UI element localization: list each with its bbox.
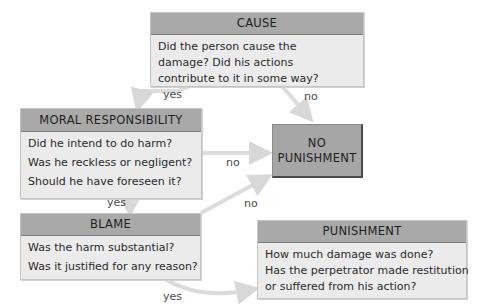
edge-label-blame-nopunishment: no bbox=[244, 197, 258, 210]
node-cause-title: CAUSE bbox=[151, 13, 363, 35]
node-punishment-body: How much damage was done? Has the perpet… bbox=[258, 243, 466, 295]
node-punishment-title: PUNISHMENT bbox=[258, 221, 466, 243]
edge-label-cause-nopunishment: no bbox=[304, 90, 318, 103]
node-no-punishment-line: PUNISHMENT bbox=[273, 151, 361, 166]
edge-label-cause-moral: yes bbox=[163, 88, 182, 101]
node-cause-line: Did the person cause the bbox=[158, 39, 357, 55]
node-punishment-line: How much damage was done? bbox=[265, 247, 460, 263]
node-moral-body: Did he intend to do harm? Was he reckles… bbox=[21, 132, 201, 191]
node-punishment: PUNISHMENT How much damage was done? Has… bbox=[257, 220, 467, 299]
node-no-punishment: NO PUNISHMENT bbox=[272, 124, 363, 178]
node-no-punishment-line: NO bbox=[273, 136, 361, 151]
node-moral-line: Should he have foreseen it? bbox=[28, 172, 195, 191]
edge-label-moral-blame: yes bbox=[107, 196, 126, 209]
edge-label-moral-nopunishment: no bbox=[226, 156, 240, 169]
node-blame-title: BLAME bbox=[21, 214, 200, 236]
node-moral-title: MORAL RESPONSIBILITY bbox=[21, 109, 201, 132]
node-cause-body: Did the person cause the damage? Did his… bbox=[151, 35, 363, 87]
node-moral-line: Did he intend to do harm? bbox=[28, 134, 195, 153]
node-blame: BLAME Was the harm substantial? Was it j… bbox=[20, 213, 201, 280]
edge-label-blame-punishment: yes bbox=[163, 290, 182, 303]
node-punishment-line: Has the perpetrator made restitution bbox=[265, 263, 460, 279]
node-blame-line: Was it justified for any reason? bbox=[28, 257, 194, 276]
node-blame-line: Was the harm substantial? bbox=[28, 238, 194, 257]
node-moral-responsibility: MORAL RESPONSIBILITY Did he intend to do… bbox=[20, 108, 202, 199]
node-cause-line: damage? Did his actions bbox=[158, 55, 357, 71]
node-moral-line: Was he reckless or negligent? bbox=[28, 153, 195, 172]
node-cause: CAUSE Did the person cause the damage? D… bbox=[150, 12, 364, 87]
node-punishment-line: or suffered from his action? bbox=[265, 279, 460, 295]
node-cause-line: contribute to it in some way? bbox=[158, 71, 357, 87]
node-blame-body: Was the harm substantial? Was it justifi… bbox=[21, 236, 200, 276]
